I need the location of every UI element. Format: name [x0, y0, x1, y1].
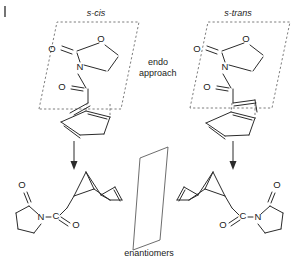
oxygen-atom-label: O	[219, 219, 226, 230]
s-trans-plane-outline	[190, 22, 290, 108]
s-cis-label: s-cis	[87, 8, 106, 18]
cyclopentadiene-right	[206, 112, 255, 139]
oxygen-atom-label: O	[203, 81, 210, 92]
s-cis-plane-outline	[39, 22, 139, 109]
cyclopentadiene-left	[61, 111, 110, 138]
right-product-group: C O N O	[177, 172, 283, 233]
acryloyl-chain-right: O	[203, 74, 257, 112]
oxazolidinone-ring-left: O O N	[48, 33, 118, 72]
reaction-scheme-figure: s-cis O O N O	[0, 0, 299, 266]
nitrogen-atom-label: N	[222, 61, 229, 72]
reaction-arrow-right	[230, 141, 237, 170]
oxygen-atom-label: O	[18, 179, 25, 190]
oxazolidinone-ring-right: O O N	[193, 33, 263, 72]
carbon-atom-label: C	[53, 210, 60, 221]
nitrogen-atom-label: N	[77, 61, 84, 72]
nitrogen-atom-label: N	[255, 211, 262, 222]
s-trans-label: s-trans	[224, 8, 252, 18]
endo-label-line2: approach	[139, 68, 177, 78]
nitrogen-atom-label: N	[38, 211, 45, 222]
oxygen-atom-label: O	[242, 33, 249, 44]
left-reactant-group: s-cis O O N O	[39, 8, 139, 170]
endo-approach-caption: endo approach	[139, 57, 177, 78]
oxygen-atom-label: O	[97, 33, 104, 44]
oxygen-atom-label: O	[58, 81, 65, 92]
oxygen-atom-label: O	[273, 179, 280, 190]
oxygen-atom-label: O	[72, 219, 79, 230]
endo-label-line1: endo	[148, 57, 168, 67]
carbon-atom-label: C	[240, 210, 247, 221]
left-product-group: C O N O	[16, 172, 122, 233]
oxygen-atom-label: O	[193, 43, 200, 54]
endo-guide-line	[231, 103, 232, 113]
right-reactant-group: s-trans O O N O	[190, 8, 290, 170]
oxygen-atom-label: O	[48, 43, 55, 54]
mirror-plane	[133, 147, 168, 250]
reaction-arrow-left	[71, 141, 78, 170]
enantiomers-label: enantiomers	[124, 248, 174, 258]
